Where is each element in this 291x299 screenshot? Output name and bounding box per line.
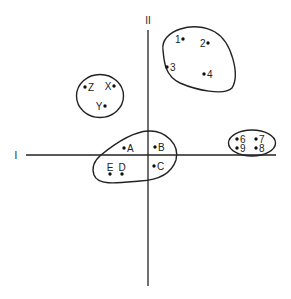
point-label-y: Y [96, 101, 103, 112]
data-point-2 [206, 41, 209, 44]
cluster-letters-center: ABCDE [107, 142, 165, 176]
data-point-a [122, 146, 125, 149]
point-label-4: 4 [207, 69, 213, 80]
data-point-c [152, 164, 155, 167]
cluster-boundary-letters-center [93, 131, 177, 183]
point-label-9: 9 [240, 143, 246, 154]
data-point-1 [181, 37, 184, 40]
point-label-d: D [118, 162, 125, 173]
point-label-8: 8 [259, 143, 265, 154]
data-point-7 [254, 137, 257, 140]
cluster-numbers-right: 6798 [235, 134, 265, 154]
cluster-xyz: ZXY [83, 81, 115, 112]
data-point-y [103, 104, 106, 107]
point-label-a: A [127, 143, 134, 154]
data-point-3 [165, 65, 168, 68]
point-label-1: 1 [175, 34, 181, 45]
cluster-diagram: II I 1234ZXYABCDE6798 [0, 0, 291, 299]
horizontal-axis-label: I [15, 150, 18, 161]
vertical-axis-label: II [145, 15, 151, 26]
data-point-6 [235, 137, 238, 140]
data-point-z [83, 85, 86, 88]
point-label-e: E [107, 162, 114, 173]
data-point-x [112, 84, 115, 87]
point-label-z: Z [88, 82, 94, 93]
data-point-9 [235, 146, 238, 149]
data-point-8 [254, 146, 257, 149]
data-point-4 [202, 72, 205, 75]
point-label-3: 3 [170, 62, 176, 73]
point-label-c: C [157, 161, 164, 172]
point-label-2: 2 [200, 38, 206, 49]
cluster-boundary-numbers-right [229, 130, 276, 156]
point-label-x: X [105, 81, 112, 92]
data-point-b [153, 145, 156, 148]
cluster-numbers-upper: 1234 [165, 34, 213, 80]
point-label-b: B [158, 142, 165, 153]
